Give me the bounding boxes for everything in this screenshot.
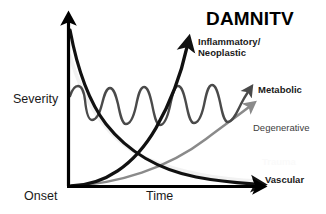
chart-title: DAMNITV <box>206 8 294 29</box>
series-label-inflammatory-line2: Neoplastic <box>198 48 260 59</box>
series-label-inflammatory-neoplastic: Inflammatory/ Neoplastic <box>198 37 260 58</box>
series-metabolic <box>70 85 248 125</box>
series-label-degenerative: Degenerative <box>253 123 310 134</box>
x-axis-label: Time <box>146 189 173 203</box>
x-axis-origin-label: Onset <box>24 189 57 203</box>
damnitv-diagram: DAMNITV Inflammatory/ Neoplastic Metabol… <box>0 0 326 214</box>
series-label-metabolic: Metabolic <box>258 85 302 96</box>
series-trauma <box>70 56 258 181</box>
y-axis-label: Severity <box>13 92 58 106</box>
series-label-trauma: Trauma <box>262 157 296 168</box>
series-label-vascular: Vascular <box>265 175 304 186</box>
